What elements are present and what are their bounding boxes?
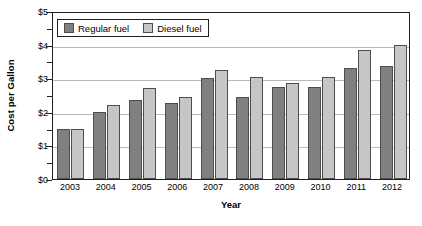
bars-layer [53,13,409,179]
bar-2010-diesel-fuel [322,77,335,179]
bar-2005-regular-fuel [129,100,142,179]
bar-2012-diesel-fuel [394,45,407,179]
bar-group [339,13,375,179]
x-axis-tick-label: 2010 [310,182,330,192]
bar-group [375,13,411,179]
y-axis-tick [46,113,52,114]
bar-2007-regular-fuel [201,78,214,179]
bar-2006-diesel-fuel [179,97,192,179]
x-axis-tick-label: 2011 [347,182,366,192]
plot-area [52,12,410,180]
legend-item-regular-fuel: Regular fuel [64,23,129,34]
x-axis-tick-label: 2003 [60,182,80,192]
bar-2006-regular-fuel [165,103,178,179]
legend-label-diesel-fuel: Diesel fuel [157,23,201,34]
bar-2008-diesel-fuel [250,77,263,179]
y-axis-tick [46,12,52,13]
bar-2005-diesel-fuel [143,88,156,179]
bar-2004-regular-fuel [93,112,106,179]
y-axis-tick [46,180,52,181]
bar-group [268,13,304,179]
legend-swatch-diesel-fuel [143,23,153,33]
y-axis-minor-tick [47,29,52,30]
y-axis-minor-tick [47,96,52,97]
x-axis-tick-label: 2012 [382,182,402,192]
bar-group [232,13,268,179]
y-axis-tick [46,46,52,47]
bar-group [89,13,125,179]
y-axis-tick [46,79,52,80]
bar-2003-diesel-fuel [71,129,84,179]
bar-2011-diesel-fuel [358,50,371,179]
y-axis-minor-tick [47,62,52,63]
x-axis-tick-label: 2007 [203,182,223,192]
bar-chart: Cost per Gallon $0$1$2$3$4$5 Regular fue… [0,0,422,226]
legend-swatch-regular-fuel [64,23,74,33]
bar-2004-diesel-fuel [107,105,120,179]
bar-2012-regular-fuel [380,66,393,179]
x-axis-tick-label: 2005 [131,182,151,192]
y-axis-minor-tick [47,163,52,164]
bar-2010-regular-fuel [308,87,321,179]
legend-label-regular-fuel: Regular fuel [78,23,129,34]
y-axis-tick [46,146,52,147]
bar-2008-regular-fuel [236,97,249,179]
bar-group [196,13,232,179]
legend-item-diesel-fuel: Diesel fuel [143,23,201,34]
x-axis-title: Year [52,199,410,210]
x-axis-tick-label: 2006 [167,182,187,192]
bar-2007-diesel-fuel [215,70,228,179]
x-axis-tick-label: 2009 [275,182,295,192]
x-axis-tick-labels: 2003200420052006200720082009201020112012 [52,182,410,196]
x-axis-tick-label: 2008 [239,182,259,192]
y-axis-title-text: Cost per Gallon [5,59,16,131]
x-axis-tick-label: 2004 [96,182,116,192]
y-axis-minor-tick [47,130,52,131]
bar-2011-regular-fuel [344,68,357,179]
bar-2009-regular-fuel [272,87,285,179]
bar-2009-diesel-fuel [286,83,299,179]
bar-group [125,13,161,179]
bar-2003-regular-fuel [57,129,70,179]
bar-group [160,13,196,179]
chart-legend: Regular fuel Diesel fuel [57,19,209,37]
y-axis-title: Cost per Gallon [0,0,20,190]
bar-group [53,13,89,179]
bar-group [304,13,340,179]
